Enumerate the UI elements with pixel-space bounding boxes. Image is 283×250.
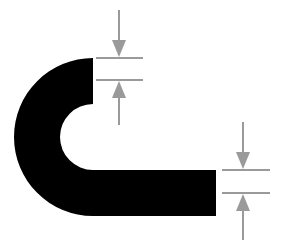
arrow-up-icon — [236, 194, 250, 211]
bent-strip-shape — [14, 58, 216, 216]
arrow-down-icon — [112, 40, 126, 57]
diagram-canvas — [0, 0, 283, 250]
arrow-down-icon — [236, 152, 250, 169]
top-thickness-dimension — [96, 10, 143, 125]
arrow-up-icon — [112, 81, 126, 98]
bottom-thickness-dimension — [222, 122, 270, 240]
